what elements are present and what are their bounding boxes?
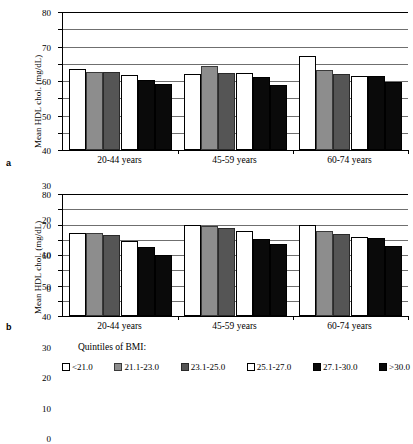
bar — [253, 77, 270, 150]
y-axis-tick-label: 30 — [42, 343, 51, 352]
bar — [236, 73, 253, 150]
bar — [316, 231, 333, 316]
y-axis-tick-label: 10 — [42, 404, 51, 413]
bar — [121, 241, 138, 316]
bar — [86, 72, 103, 150]
bar — [333, 74, 350, 150]
bar — [236, 231, 253, 316]
panel-letter-a: a — [6, 158, 11, 168]
y-axis-tick-label: 60 — [42, 78, 51, 87]
bar — [121, 75, 138, 150]
gridline — [63, 225, 408, 226]
gridline — [63, 29, 408, 30]
x-axis-group-separator — [408, 316, 409, 320]
legend-title: Quintiles of BMI: — [78, 342, 146, 352]
y-axis-title-b: Mean HDL chol. (mg/dL) — [33, 221, 43, 314]
legend-swatch-icon — [379, 363, 387, 371]
y-axis-tick: 40 — [58, 255, 63, 256]
y-axis-tick-label: 60 — [42, 252, 51, 261]
bar — [86, 233, 103, 316]
bar — [270, 85, 287, 150]
x-axis-group-separator — [293, 150, 294, 154]
y-axis-tick-label: 50 — [42, 112, 51, 121]
y-axis-tick-label: 50 — [42, 282, 51, 291]
gridline — [63, 64, 408, 65]
x-axis-category-label: 60-74 years — [292, 321, 407, 331]
y-axis-tick: 80 — [58, 194, 63, 195]
legend-item: 21.1-23.0 — [114, 362, 159, 372]
y-axis-tick: 0 — [58, 150, 63, 151]
bar — [351, 76, 368, 150]
bar — [103, 72, 120, 150]
bar — [253, 239, 270, 316]
legend-swatch-icon — [114, 363, 122, 371]
legend-item: <21.0 — [62, 362, 93, 372]
legend-item-label: 21.1-23.0 — [124, 362, 159, 372]
panel-letter-b: b — [6, 322, 12, 332]
x-axis-category-label: 60-74 years — [292, 155, 407, 165]
plot-area-b: 01020304050607080 — [62, 194, 408, 317]
bar — [218, 73, 235, 150]
y-axis-tick: 50 — [58, 64, 63, 65]
bar — [155, 84, 172, 150]
bar — [316, 70, 333, 150]
y-axis-tick-label: 80 — [42, 9, 51, 18]
y-axis-tick-label: 70 — [42, 43, 51, 52]
bar — [69, 69, 86, 150]
y-axis-tick: 30 — [58, 270, 63, 271]
y-axis-tick: 0 — [58, 316, 63, 317]
y-axis-tick: 20 — [58, 286, 63, 287]
bar — [201, 226, 218, 316]
y-axis-title-a: Mean HDL chol. (mg/dL) — [33, 55, 43, 148]
y-axis-tick: 60 — [58, 47, 63, 48]
legend-item: 23.1-25.0 — [181, 362, 226, 372]
legend-items: <21.021.1-23.023.1-25.025.1-27.027.1-30.… — [62, 362, 410, 372]
y-axis-tick-label: 0 — [47, 435, 52, 444]
y-axis-tick: 70 — [58, 29, 63, 30]
plot-area-a: 01020304050607080 — [62, 12, 408, 151]
gridline — [63, 209, 408, 210]
bar — [299, 225, 316, 316]
bar — [155, 255, 172, 316]
legend-swatch-icon — [62, 363, 70, 371]
bar — [138, 247, 155, 316]
y-axis-tick-label: 40 — [42, 147, 51, 156]
y-axis-tick-label: 80 — [42, 191, 51, 200]
gridline — [63, 47, 408, 48]
y-axis-tick: 20 — [58, 116, 63, 117]
y-axis-tick: 10 — [58, 301, 63, 302]
bar — [351, 237, 368, 316]
x-axis-category-label: 45-59 years — [177, 321, 292, 331]
y-axis-tick: 80 — [58, 12, 63, 13]
x-axis-group-separator — [178, 150, 179, 154]
bar — [201, 66, 218, 150]
bar — [218, 228, 235, 316]
legend-item-label: <21.0 — [72, 362, 93, 372]
panel-b: b Mean HDL chol. (mg/dL) 010203040506070… — [0, 182, 413, 342]
y-axis-tick-label: 40 — [42, 313, 51, 322]
panel-a: a Mean HDL chol. (mg/dL) 010203040506070… — [0, 0, 413, 182]
bar — [385, 82, 402, 150]
bar — [103, 235, 120, 316]
legend-swatch-icon — [313, 363, 321, 371]
legend-item: >30.0 — [379, 362, 410, 372]
legend-item-label: >30.0 — [389, 362, 410, 372]
legend-item: 25.1-27.0 — [247, 362, 292, 372]
x-axis-category-label: 20-44 years — [62, 321, 177, 331]
bar — [385, 246, 402, 316]
legend-item: 27.1-30.0 — [313, 362, 358, 372]
gridline — [63, 194, 408, 195]
bar — [270, 244, 287, 316]
bar — [368, 76, 385, 150]
x-axis-labels-a: 20-44 years45-59 years60-74 years — [62, 155, 407, 165]
y-axis-tick: 50 — [58, 240, 63, 241]
legend-item-label: 25.1-27.0 — [257, 362, 292, 372]
x-axis-category-label: 45-59 years — [177, 155, 292, 165]
x-axis-labels-b: 20-44 years45-59 years60-74 years — [62, 321, 407, 331]
y-axis-tick-label: 20 — [42, 374, 51, 383]
bar — [184, 74, 201, 150]
y-axis-tick: 10 — [58, 133, 63, 134]
bar — [184, 225, 201, 316]
bar — [333, 234, 350, 316]
